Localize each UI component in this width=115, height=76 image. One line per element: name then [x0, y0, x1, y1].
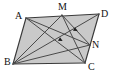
- vertex-label-b: B: [4, 57, 11, 67]
- geometry-figure: AMDNCB: [0, 0, 115, 76]
- vertex-label-a: A: [15, 11, 22, 21]
- vertex-label-m: M: [58, 2, 67, 12]
- vertex-label-d: D: [101, 9, 108, 19]
- vertex-label-n: N: [92, 40, 99, 50]
- vertex-label-c: C: [88, 62, 95, 72]
